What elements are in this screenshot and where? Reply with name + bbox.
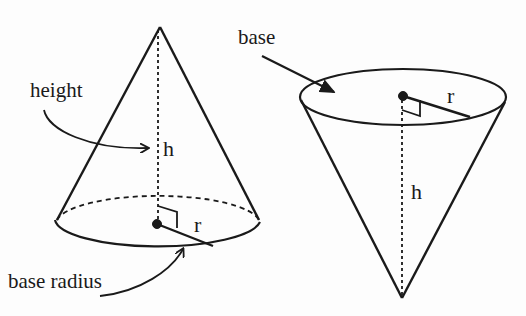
label-height: height	[30, 80, 83, 101]
left-cone-side-left	[57, 27, 160, 220]
right-cone-side-left	[301, 100, 402, 298]
label-base: base	[238, 27, 275, 48]
cone-diagram: height h r base radius base h r	[0, 0, 526, 316]
right-cone	[262, 56, 506, 298]
height-arrow	[44, 110, 148, 148]
base-radius-arrow	[100, 249, 183, 296]
base-arrow	[262, 56, 334, 92]
right-cone-right-angle	[402, 100, 420, 116]
right-var-r: r	[447, 85, 454, 107]
label-base-radius: base radius	[8, 271, 102, 292]
left-cone-side-right	[160, 27, 259, 220]
left-cone-radius-line	[157, 224, 213, 246]
left-cone	[44, 27, 260, 296]
left-var-r: r	[194, 214, 201, 236]
right-var-h: h	[411, 181, 422, 203]
left-var-h: h	[163, 138, 174, 160]
